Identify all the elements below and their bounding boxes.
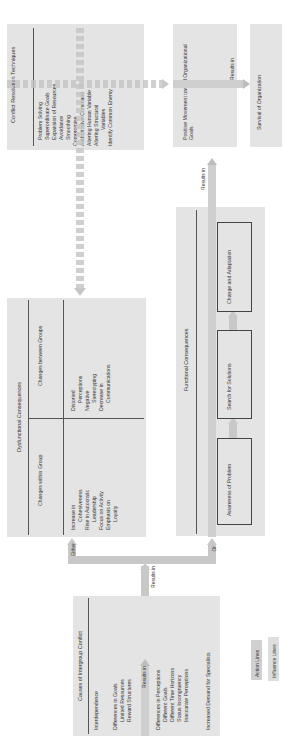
divider — [196, 210, 197, 534]
causes-title: Causes of Intergroup Conflict — [77, 600, 83, 732]
results-in-label: Results in — [141, 666, 147, 688]
legend-action-label: Action Lines — [254, 643, 260, 677]
influence-line-vertical — [76, 28, 84, 288]
cause-item: Different Time Horizons — [169, 605, 175, 722]
action-line — [208, 165, 216, 537]
list-item: Communications — [105, 306, 111, 403]
resolution-item: Altering Structural — [93, 30, 99, 146]
action-line — [229, 316, 237, 330]
dysfunctional-title: Dysfunctional Consequences — [16, 300, 22, 535]
divider — [88, 598, 89, 734]
divider — [28, 418, 144, 419]
arrow-right-icon — [162, 79, 169, 89]
results-in-label: Results in — [200, 168, 206, 190]
step-change-label: Change and Adaptation — [226, 228, 242, 304]
list-item: Leadership — [91, 430, 97, 522]
action-line — [229, 423, 237, 438]
resolution-item: Identify Common Enemy — [107, 30, 113, 146]
cause-item: Status Incongruency — [176, 605, 182, 722]
cause-item: Reward Structures — [126, 605, 132, 722]
list-item: Decrease in — [98, 306, 104, 411]
step-awareness-label: Awareness of Problem — [226, 444, 242, 516]
cause-item: Interdependence — [93, 605, 99, 730]
action-line — [173, 80, 243, 88]
cause-item: Differences in Goals — [112, 605, 118, 730]
arrow-up-icon — [207, 538, 217, 545]
list-item: Loyalty — [112, 430, 118, 522]
cause-item: Limited Resources — [119, 605, 125, 722]
list-item: Focus on Activity — [98, 430, 104, 530]
influence-line-horizontal — [7, 80, 162, 88]
arrow-up-icon — [207, 158, 217, 165]
arrow-right-icon — [243, 79, 250, 89]
results-in-label: Results in — [229, 58, 235, 80]
survival-label: Survival of Organization — [256, 40, 272, 130]
list-item: Cohesiveness — [77, 430, 83, 522]
cause-item: Inaccurate Perceptions — [183, 605, 189, 722]
arrow-down-icon — [74, 288, 86, 296]
arrow-up-icon — [140, 659, 150, 666]
divider — [63, 300, 64, 535]
list-item: Negative — [84, 306, 90, 411]
step-search-label: Search for Solutions — [226, 336, 242, 410]
list-item: Stereotyping — [91, 306, 97, 403]
list-item: Rise in Autocratic — [84, 430, 90, 530]
legend-influence-label: Influence Lines — [271, 640, 277, 678]
results-in-label: Results in — [150, 566, 156, 588]
cause-item: Differences in Perceptions — [155, 605, 161, 730]
arrow-up-icon — [140, 563, 150, 570]
list-item: Distorted — [70, 306, 76, 411]
or-label: Or — [211, 546, 217, 552]
resolution-item: Altering Human Variable — [86, 30, 92, 146]
either-label: Either — [70, 543, 76, 556]
list-item: Increase in — [70, 430, 76, 530]
cause-item: Increased Demand for Specialists — [205, 605, 211, 730]
functional-title: Functional Consequences — [183, 300, 189, 420]
col-title-within: Changes within Group — [37, 430, 55, 530]
cause-item: Different Goals — [162, 605, 168, 722]
list-item: Perceptions — [77, 306, 83, 403]
list-item: Emphasis on — [105, 430, 111, 530]
col-title-between: Changes between Groups — [37, 306, 55, 406]
